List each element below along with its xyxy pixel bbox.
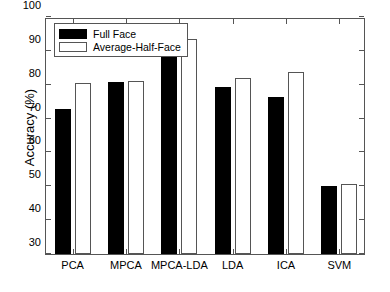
y-tick-mark-right bbox=[359, 185, 364, 186]
bar-mpca-average-half-face bbox=[128, 81, 144, 254]
y-tick-mark-right bbox=[359, 118, 364, 119]
y-tick-mark-right bbox=[359, 16, 364, 17]
y-tick-label: 100 bbox=[23, 0, 41, 11]
y-tick-mark: 100 bbox=[46, 16, 51, 17]
y-tick-label: 80 bbox=[29, 67, 41, 79]
bar-ica-average-half-face bbox=[288, 72, 304, 254]
legend-label-full-face: Full Face bbox=[93, 28, 136, 40]
y-tick-mark: 40 bbox=[46, 219, 51, 220]
y-tick-mark: 50 bbox=[46, 185, 51, 186]
y-tick-mark: 90 bbox=[46, 50, 51, 51]
x-tick-mark: PCA bbox=[73, 249, 74, 254]
plot-area: 30405060708090100 PCAMPCAMPCA-LDALDAICAS… bbox=[45, 18, 365, 255]
y-tick-mark-right bbox=[359, 253, 364, 254]
y-tick-label: 30 bbox=[29, 236, 41, 248]
y-tick-mark: 60 bbox=[46, 151, 51, 152]
bar-mpca-lda-average-half-face bbox=[181, 39, 197, 254]
x-tick-label: MPCA bbox=[110, 259, 142, 271]
x-tick-mark: MPCA bbox=[126, 249, 127, 254]
y-tick-label: 40 bbox=[29, 202, 41, 214]
y-tick-mark-right bbox=[359, 50, 364, 51]
y-tick-mark-right bbox=[359, 219, 364, 220]
bar-pca-average-half-face bbox=[75, 83, 91, 254]
bar-mpca-lda-full-face bbox=[161, 46, 177, 254]
y-tick-mark: 70 bbox=[46, 118, 51, 119]
x-tick-mark: ICA bbox=[286, 249, 287, 254]
legend-swatch-full-face bbox=[59, 29, 87, 39]
legend: Full Face Average-Half-Face bbox=[54, 23, 188, 57]
bar-lda-full-face bbox=[215, 87, 231, 254]
y-tick-label: 90 bbox=[29, 33, 41, 45]
y-tick-mark: 30 bbox=[46, 253, 51, 254]
bar-svm-average-half-face bbox=[341, 184, 357, 254]
y-tick-mark-right bbox=[359, 84, 364, 85]
x-tick-mark-top bbox=[233, 19, 234, 24]
x-tick-label: SVM bbox=[327, 259, 351, 271]
legend-swatch-average-half-face bbox=[59, 42, 87, 52]
legend-label-average-half-face: Average-Half-Face bbox=[93, 41, 181, 53]
y-tick-mark-right bbox=[359, 151, 364, 152]
y-tick-mark: 80 bbox=[46, 84, 51, 85]
legend-item-full-face: Full Face bbox=[59, 27, 181, 40]
x-tick-label: PCA bbox=[61, 259, 84, 271]
x-tick-mark-top bbox=[286, 19, 287, 24]
y-tick-label: 70 bbox=[29, 101, 41, 113]
x-tick-mark: MPCA-LDA bbox=[179, 249, 180, 254]
y-tick-label: 60 bbox=[29, 134, 41, 146]
y-tick-label: 50 bbox=[29, 168, 41, 180]
bar-svm-full-face bbox=[321, 186, 337, 254]
bar-ica-full-face bbox=[268, 97, 284, 254]
x-tick-mark: SVM bbox=[339, 249, 340, 254]
x-tick-label: LDA bbox=[222, 259, 243, 271]
legend-item-average-half-face: Average-Half-Face bbox=[59, 40, 181, 53]
bar-mpca-full-face bbox=[108, 82, 124, 254]
bar-pca-full-face bbox=[55, 109, 71, 254]
x-tick-label: ICA bbox=[277, 259, 295, 271]
bar-chart-figure: Accuracy (%) 30405060708090100 PCAMPCAMP… bbox=[0, 0, 390, 292]
x-tick-mark: LDA bbox=[233, 249, 234, 254]
x-tick-mark-top bbox=[339, 19, 340, 24]
x-tick-label: MPCA-LDA bbox=[151, 259, 208, 271]
bar-lda-average-half-face bbox=[235, 78, 251, 254]
